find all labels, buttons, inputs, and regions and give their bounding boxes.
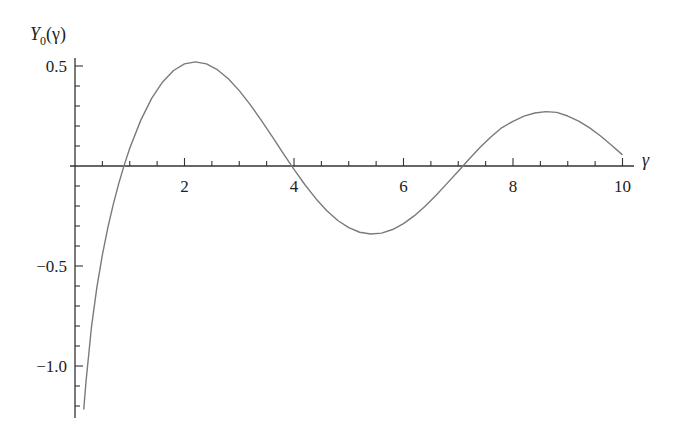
x-tick-label: 2 [180,177,189,196]
y-tick-label: −1.0 [36,357,67,376]
axis-ticks [75,66,623,406]
x-tick-label: 6 [399,177,408,196]
y-tick-label: 0.5 [46,57,67,76]
x-axis-title: γ [642,150,650,170]
y0-curve [84,62,623,410]
x-tick-label: 4 [290,177,299,196]
y-axis-title-arg: (γ) [46,24,66,45]
x-tick-label: 10 [614,177,631,196]
y-tick-label: −0.5 [36,257,67,276]
y-axis-title: Y0(γ) [30,24,66,48]
bessel-y0-chart: 2468100.5−0.5−1.0 Y0(γ) γ [0,0,679,442]
x-tick-label: 8 [509,177,518,196]
